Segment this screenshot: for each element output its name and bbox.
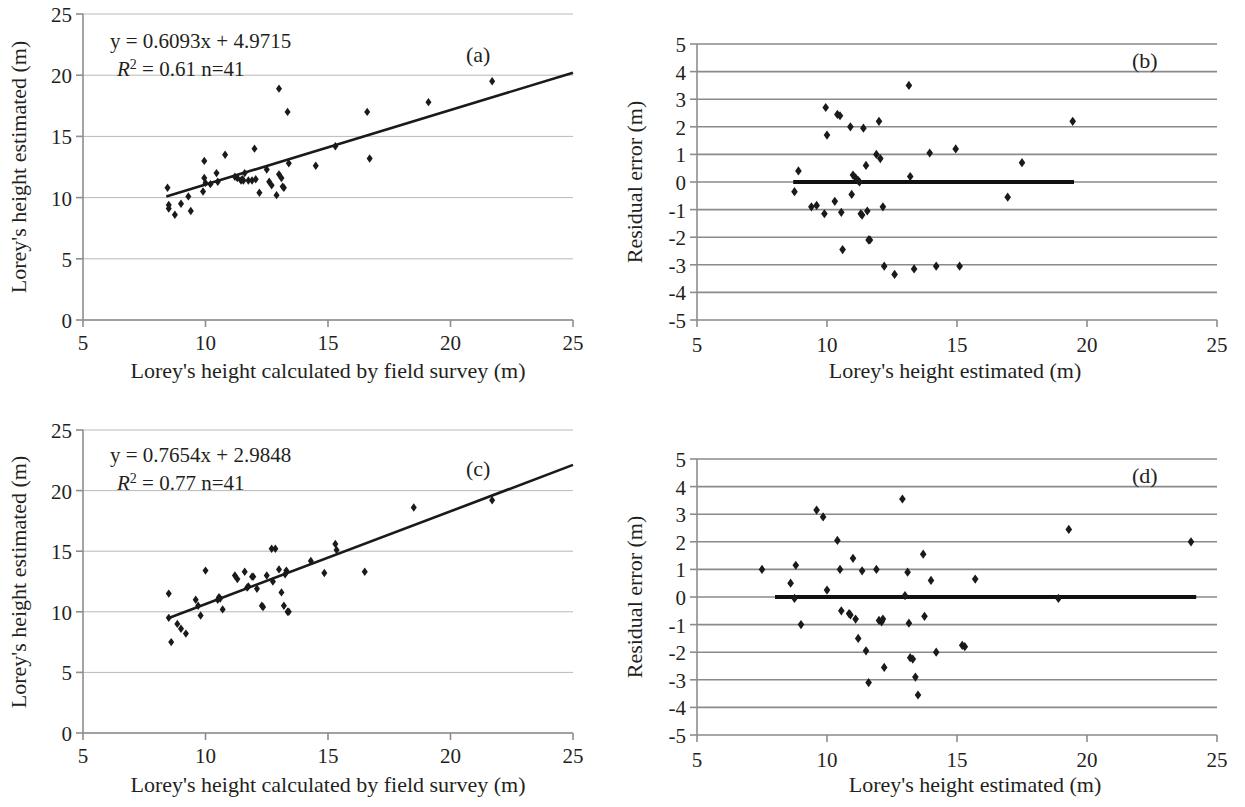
y-tick-label: 0 (676, 586, 687, 610)
y-tick-label: -4 (669, 696, 687, 720)
data-point (411, 503, 417, 511)
data-point (188, 207, 194, 215)
data-point (313, 162, 319, 170)
data-point (915, 690, 922, 699)
data-point (920, 550, 927, 559)
data-point (899, 494, 906, 503)
x-tick-label: 15 (318, 331, 339, 355)
data-point (838, 606, 845, 615)
data-point (911, 264, 918, 273)
y-tick-label: 25 (51, 419, 72, 443)
data-point (906, 81, 913, 90)
panel-a-svg: 0510152025 510152025 y = 0.6093x + 4.971… (0, 0, 620, 400)
y-tick-label: -2 (669, 226, 687, 250)
data-point (321, 569, 327, 577)
data-point (364, 108, 370, 116)
data-point (813, 201, 820, 210)
data-point (860, 124, 867, 133)
y-tick-label: 3 (676, 88, 687, 112)
data-point (201, 157, 207, 165)
data-point (824, 130, 831, 139)
data-point (837, 565, 844, 574)
x-tick-label: 10 (817, 333, 838, 357)
figure-root: 0510152025 510152025 y = 0.6093x + 4.971… (0, 0, 1245, 807)
panel-c-ytick-labels: 0510152025 (51, 419, 72, 746)
panel-b: 543210-1-2-3-4-5 510152025 (b) Lorey's h… (620, 0, 1245, 400)
panel-a-ytick-labels: 0510152025 (51, 3, 72, 333)
panel-c-xlabel: Lorey's height calculated by field surve… (131, 772, 526, 797)
data-point (185, 192, 191, 200)
data-point (1065, 525, 1072, 534)
x-tick-label: 10 (195, 744, 216, 768)
data-point (792, 561, 799, 570)
data-point (972, 574, 979, 583)
data-point (183, 629, 189, 637)
y-tick-label: -1 (669, 199, 687, 223)
data-point (242, 568, 248, 576)
data-point (1069, 117, 1076, 126)
data-point (834, 536, 841, 545)
y-tick-label: -2 (669, 641, 687, 665)
y-tick-label: 4 (676, 476, 687, 500)
data-point (166, 614, 172, 622)
y-tick-label: 0 (676, 171, 687, 195)
data-point (172, 211, 178, 219)
data-point (362, 568, 368, 576)
x-tick-label: 20 (440, 331, 461, 355)
panel-a: 0510152025 510152025 y = 0.6093x + 4.971… (0, 0, 620, 400)
y-tick-label: 20 (51, 480, 72, 504)
x-tick-label: 5 (692, 748, 703, 772)
data-point (220, 605, 226, 613)
panel-b-xlabel: Lorey's height estimated (m) (829, 358, 1082, 383)
panel-b-ylabel: Residual error (m) (622, 101, 647, 264)
panel-c-r2-line: R2 = 0.77 n=41 (116, 471, 245, 495)
data-point (881, 663, 888, 672)
panel-c-equation: y = 0.7654x + 2.9848 (110, 443, 291, 467)
data-point (489, 77, 495, 85)
data-point (795, 166, 802, 175)
data-point (165, 184, 171, 192)
data-point (278, 588, 284, 596)
data-point (787, 579, 794, 588)
data-point (256, 189, 262, 197)
data-point (202, 566, 208, 574)
y-tick-label: 2 (676, 116, 687, 140)
y-tick-label: 1 (676, 143, 687, 167)
y-tick-label: -5 (669, 724, 687, 748)
panel-d-tag: (d) (1132, 463, 1158, 488)
y-tick-label: 0 (62, 722, 73, 746)
data-point (891, 270, 898, 279)
data-point (276, 565, 282, 573)
y-tick-label: 10 (51, 601, 72, 625)
data-point (848, 190, 855, 199)
panel-d-xtick-labels: 510152025 (692, 748, 1228, 772)
data-point (425, 98, 431, 106)
data-point (863, 646, 870, 655)
data-point (214, 169, 220, 177)
panel-c-points (166, 496, 495, 646)
x-tick-label: 15 (947, 333, 968, 357)
y-tick-label: 5 (676, 33, 687, 57)
x-tick-label: 20 (440, 744, 461, 768)
data-point (926, 148, 933, 157)
y-tick-label: 15 (51, 540, 72, 564)
x-tick-label: 15 (947, 748, 968, 772)
y-tick-label: -5 (669, 309, 687, 333)
data-point (921, 612, 928, 621)
data-point (821, 209, 828, 218)
data-point (906, 619, 913, 628)
data-point (847, 122, 854, 131)
data-point (222, 151, 228, 159)
data-point (215, 177, 221, 185)
panel-d-ticks (690, 459, 1217, 742)
data-point (831, 197, 838, 206)
y-tick-label: 3 (676, 503, 687, 527)
panel-a-xlabel: Lorey's height calculated by field surve… (131, 358, 526, 383)
y-tick-label: 1 (676, 558, 687, 582)
x-tick-label: 10 (195, 331, 216, 355)
panel-b-xtick-labels: 510152025 (692, 333, 1228, 357)
panel-d-svg: 543210-1-2-3-4-5 510152025 (d) Lorey's h… (620, 410, 1245, 807)
data-point (1019, 158, 1026, 167)
data-point (759, 565, 766, 574)
data-point (264, 571, 270, 579)
